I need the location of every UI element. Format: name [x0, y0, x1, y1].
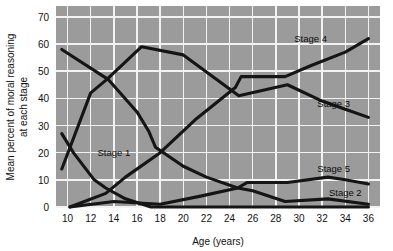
- x-tick-label: 18: [155, 213, 167, 224]
- y-tick-label: 60: [38, 39, 50, 50]
- y-tick-label: 0: [43, 202, 49, 213]
- y-tick-label: 50: [38, 66, 50, 77]
- x-tick-label: 20: [178, 213, 190, 224]
- y-axis-title-line2: at each stage: [18, 77, 29, 137]
- y-tick-label: 20: [38, 148, 50, 159]
- x-axis-title: Age (years): [192, 236, 244, 247]
- x-tick-label: 28: [270, 213, 282, 224]
- y-tick-label: 40: [38, 93, 50, 104]
- series-label-stage-2: Stage 2: [329, 187, 362, 198]
- x-tick-label: 30: [293, 213, 305, 224]
- x-tick-label: 34: [340, 213, 352, 224]
- x-tick-label: 26: [247, 213, 259, 224]
- x-tick-label: 10: [62, 213, 74, 224]
- chart-canvas: 1012141618202224262830323436 01020304050…: [0, 0, 393, 251]
- x-tick-label: 32: [317, 213, 329, 224]
- series-label-stage-4: Stage 4: [294, 33, 327, 44]
- y-tick-label: 10: [38, 175, 50, 186]
- x-tick-label: 22: [201, 213, 213, 224]
- y-axis-title-line1: Mean percent of moral reasoning: [5, 34, 16, 181]
- series-label-stage-3: Stage 3: [317, 98, 350, 109]
- x-tick-label: 12: [85, 213, 97, 224]
- series-label-stage-5: Stage 5: [317, 163, 350, 174]
- series-label-stage-1: Stage 1: [97, 147, 130, 158]
- y-tick-label: 30: [38, 121, 50, 132]
- moral-reasoning-line-chart: 1012141618202224262830323436 01020304050…: [0, 0, 393, 251]
- y-tick-label: 70: [38, 12, 50, 23]
- x-tick-label: 16: [131, 213, 143, 224]
- x-tick-label: 36: [363, 213, 375, 224]
- x-tick-label: 14: [108, 213, 120, 224]
- x-tick-label: 24: [224, 213, 236, 224]
